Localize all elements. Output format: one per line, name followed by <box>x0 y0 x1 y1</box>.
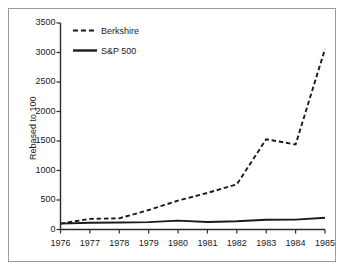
x-axis-tick-label: 1985 <box>308 238 342 248</box>
legend-marks <box>73 31 97 51</box>
series-line-berkshire <box>61 49 326 224</box>
y-axis-tick-label: 3500 <box>22 17 56 27</box>
legend-label-berkshire: Berkshire <box>101 26 139 36</box>
y-axis-tick-label: 1000 <box>22 165 56 175</box>
y-axis-tick-label: 3000 <box>22 47 56 57</box>
y-axis-tick-label: 1500 <box>22 135 56 145</box>
legend-label-sp500: S&P 500 <box>101 46 136 56</box>
y-axis-tick-label: 0 <box>22 224 56 234</box>
chart-series-lines <box>61 49 326 224</box>
y-axis-tick-label: 500 <box>22 194 56 204</box>
chart-figure: Rebased to 100 0500100015002000250030003… <box>0 0 349 271</box>
y-axis-tick-label: 2500 <box>22 76 56 86</box>
y-axis-tick-label: 2000 <box>22 106 56 116</box>
